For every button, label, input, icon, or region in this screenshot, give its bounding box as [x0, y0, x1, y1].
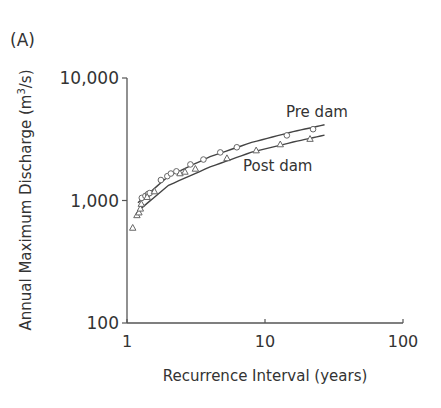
- axes: 1001,00010,000 110100: [60, 68, 419, 351]
- data-point: [277, 141, 283, 147]
- data-point: [217, 150, 223, 156]
- data-point: [130, 224, 136, 230]
- data-point: [168, 171, 174, 177]
- x-ticks: 110100: [122, 319, 418, 351]
- data-point: [201, 157, 207, 163]
- y-axis-label: Annual Maximum Discharge (m3/s): [16, 69, 35, 330]
- series-post-dam: [130, 135, 325, 230]
- x-tick-label: 100: [388, 332, 419, 351]
- y-ticks: 1001,00010,000: [60, 68, 127, 333]
- post-dam-label: Post dam: [243, 157, 312, 175]
- plot-area: [130, 125, 325, 230]
- data-point: [234, 144, 240, 150]
- panel-label: (A): [10, 30, 35, 50]
- data-point: [192, 165, 198, 171]
- data-point: [158, 177, 164, 183]
- y-tick-label: 1,000: [70, 191, 119, 211]
- data-point: [224, 155, 230, 161]
- data-point: [284, 133, 290, 139]
- chart: (A) 1001,00010,000 110100 Recurrence Int…: [0, 0, 441, 408]
- x-tick-label: 1: [122, 332, 132, 351]
- data-point: [310, 126, 316, 132]
- x-axis-label: Recurrence Interval (years): [163, 367, 368, 385]
- pre-dam-label: Pre dam: [286, 103, 348, 121]
- x-tick-label: 10: [255, 332, 275, 351]
- y-tick-label: 10,000: [60, 68, 119, 88]
- y-tick-label: 100: [87, 313, 119, 333]
- data-point: [188, 162, 194, 168]
